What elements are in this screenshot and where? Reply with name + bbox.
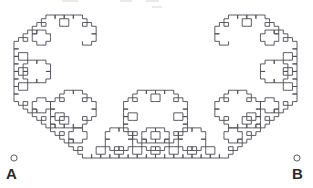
endpoint-marker-b bbox=[294, 155, 300, 161]
endpoint-label-b: B bbox=[292, 166, 303, 181]
text-remnant bbox=[152, 6, 162, 8]
text-remnant bbox=[120, 0, 132, 2]
curve-group bbox=[14, 15, 297, 158]
fractal-figure: A B bbox=[0, 0, 313, 188]
levy-c-curve-path bbox=[14, 15, 297, 158]
text-remnant bbox=[146, 0, 159, 2]
text-remnant bbox=[62, 0, 78, 2]
levy-c-curve-svg bbox=[0, 0, 313, 188]
endpoint-marker-a bbox=[11, 155, 17, 161]
endpoint-label-a: A bbox=[6, 166, 17, 181]
